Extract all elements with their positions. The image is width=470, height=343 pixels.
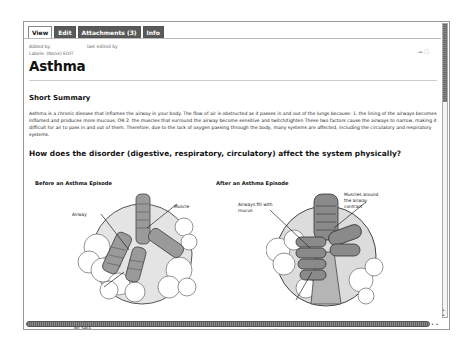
scroll-down-arrows[interactable]: •• — [441, 308, 446, 318]
page-title: Asthma — [29, 58, 86, 74]
scroll-right-arrows[interactable]: • • — [431, 322, 439, 327]
label-airways-fill-mucus: Airways fill with mucus — [238, 202, 278, 214]
wiki-page-window: View Edit Attachments (3) Info Added by … — [23, 21, 450, 330]
tab-info[interactable]: Info — [143, 26, 164, 38]
tab-divider — [24, 38, 441, 39]
short-summary-heading: Short Summary — [29, 94, 90, 102]
labels-row[interactable]: Labels: (None) EDIT — [29, 50, 118, 57]
before-caption: Before an Asthma Episode — [35, 180, 112, 186]
page-metadata: Added by last edited by Labels: (None) E… — [29, 43, 118, 57]
tab-edit[interactable]: Edit — [54, 26, 75, 38]
title-divider — [29, 80, 437, 81]
label-airways-swell: Airways swell — [247, 328, 277, 330]
tab-attachments[interactable]: Attachments (3) — [78, 26, 141, 38]
vertical-scroll-thumb[interactable] — [443, 24, 447, 102]
horizontal-scrollbar[interactable] — [26, 321, 430, 327]
last-edited-by-label: last edited by — [87, 43, 118, 50]
question-heading: How does the disorder (digestive, respir… — [29, 149, 401, 158]
page-action-icons[interactable]: ☁ □ — [418, 48, 429, 54]
after-caption: After an Asthma Episode — [216, 180, 289, 186]
label-airway: Airway — [72, 212, 87, 218]
short-summary-text: Asthma is a chronic disease that inflame… — [29, 110, 437, 138]
vertical-scrollbar[interactable] — [442, 23, 448, 318]
label-muscle: Muscle — [174, 204, 189, 210]
label-muscles-contract: Muscles around the airway contract — [344, 192, 386, 210]
added-by-label: Added by — [29, 43, 87, 50]
